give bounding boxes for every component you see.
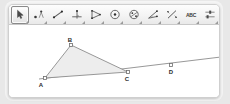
- tool-circle-center[interactable]: [106, 6, 124, 24]
- tool-conic-ellipse[interactable]: [125, 6, 143, 24]
- tool-dropdown-corner-icon[interactable]: [25, 21, 28, 24]
- tool-point[interactable]: [30, 6, 48, 24]
- graphics-view[interactable]: ABCD: [9, 25, 219, 98]
- point-label-d[interactable]: D: [169, 69, 174, 75]
- tool-slider[interactable]: [201, 6, 219, 24]
- applet-window: ABC: [8, 4, 220, 98]
- tool-dropdown-corner-icon[interactable]: [44, 21, 47, 24]
- geometry-figure: ABCD: [9, 25, 219, 98]
- tool-dropdown-corner-icon[interactable]: [177, 21, 180, 24]
- tool-dropdown-corner-icon[interactable]: [196, 21, 199, 24]
- tool-reflect-object[interactable]: [163, 6, 181, 24]
- tool-dropdown-corner-icon[interactable]: [101, 21, 104, 24]
- tool-dropdown-corner-icon[interactable]: [158, 21, 161, 24]
- polygon-abc[interactable]: [45, 45, 128, 78]
- tool-dropdown-corner-icon[interactable]: [63, 21, 66, 24]
- tool-move-arrow[interactable]: [11, 6, 29, 24]
- point-marker-c[interactable]: [127, 71, 130, 74]
- tool-text-abc[interactable]: ABC: [182, 6, 200, 24]
- toolbar: ABC: [9, 5, 219, 25]
- tool-dropdown-corner-icon[interactable]: [120, 21, 123, 24]
- tool-line-segment[interactable]: [49, 6, 67, 24]
- point-marker-d[interactable]: [170, 64, 173, 67]
- tool-dropdown-corner-icon[interactable]: [82, 21, 85, 24]
- point-marker-b[interactable]: [70, 44, 73, 47]
- tool-dropdown-corner-icon[interactable]: [139, 21, 142, 24]
- point-label-b[interactable]: B: [68, 37, 73, 43]
- text-abc-icon-label: ABC: [186, 12, 196, 18]
- tool-angle-measure[interactable]: [144, 6, 162, 24]
- tool-perpendicular-line[interactable]: [68, 6, 86, 24]
- point-marker-a[interactable]: [44, 77, 47, 80]
- tool-polygon[interactable]: [87, 6, 105, 24]
- tool-dropdown-corner-icon[interactable]: [215, 21, 218, 24]
- point-label-a[interactable]: A: [39, 82, 44, 88]
- point-label-c[interactable]: C: [125, 76, 130, 82]
